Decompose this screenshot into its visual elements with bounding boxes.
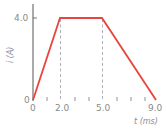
x-tick-label-2: 2.0 [55,103,70,113]
x-tick-label-5: 5.0 [96,103,111,113]
current-vs-time-chart: 4.0 0 0 2.0 5.0 9.0 t (ms) i (A) [0,0,166,134]
y-tick-label-4: 4.0 [14,13,29,23]
x-tick-label-0: 0 [30,103,36,113]
x-axis-label: t (ms) [134,117,158,126]
x-tick-label-9: 9.0 [148,103,163,113]
y-axis-label: i (A) [6,47,15,63]
current-line [33,18,156,100]
